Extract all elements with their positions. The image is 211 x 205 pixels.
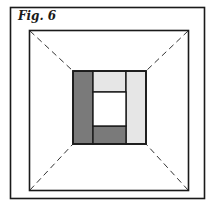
top-strip bbox=[93, 71, 126, 92]
right-strip bbox=[126, 71, 146, 144]
center-block bbox=[73, 71, 146, 144]
center-opening bbox=[93, 92, 126, 126]
bottom-strip bbox=[93, 126, 126, 144]
left-strip bbox=[73, 71, 93, 144]
diagram-canvas bbox=[0, 0, 211, 205]
